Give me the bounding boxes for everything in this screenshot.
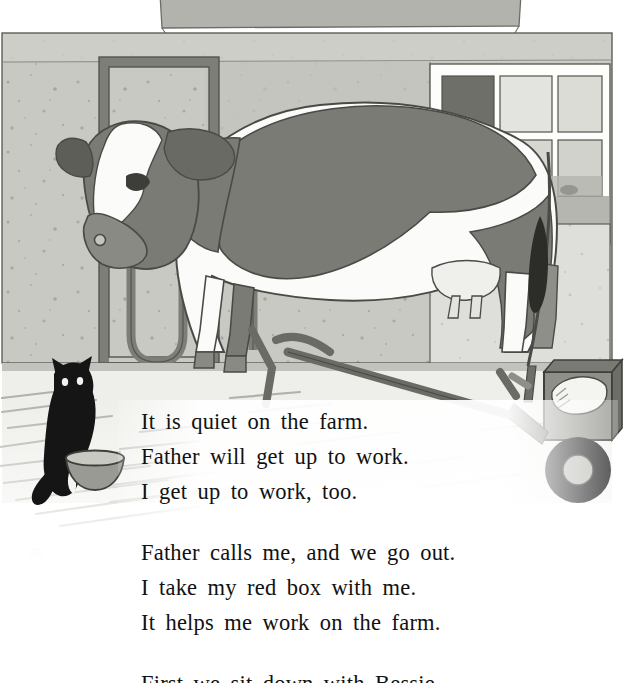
text-line: It is quiet on the farm. (141, 404, 611, 439)
paragraph-2: Father calls me, and we go out. I take m… (141, 535, 611, 640)
paragraph-1: It is quiet on the farm. Father will get… (141, 404, 611, 509)
paragraph-3: First we sit down with Bessie. (141, 666, 611, 683)
storybook-page: It is quiet on the farm. Father will get… (0, 0, 630, 683)
text-line: Father calls me, and we go out. (141, 535, 611, 570)
story-text: It is quiet on the farm. Father will get… (141, 404, 611, 683)
text-line: First we sit down with Bessie. (141, 666, 611, 683)
text-line: It helps me work on the farm. (141, 605, 611, 640)
text-line: Father will get up to work. (141, 439, 611, 474)
text-line: I take my red box with me. (141, 570, 611, 605)
text-line: I get up to work, too. (141, 474, 611, 509)
